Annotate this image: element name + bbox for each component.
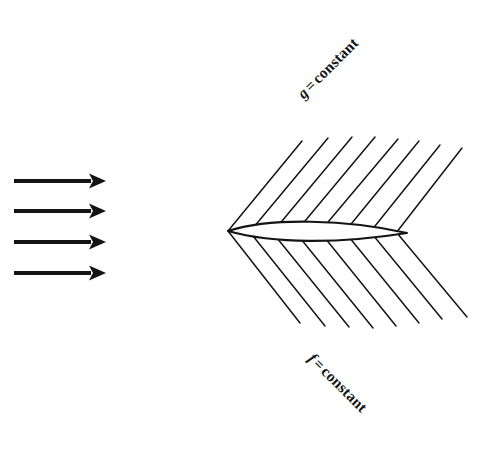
streamline-f <box>397 233 467 317</box>
streamline-g <box>396 148 462 233</box>
arrow-head <box>89 204 106 219</box>
arrow-head <box>89 235 106 250</box>
g-constant-streamlines <box>228 137 462 233</box>
flow-field-drawing <box>0 0 489 450</box>
streamline-g <box>253 138 328 228</box>
streamline-f <box>253 236 325 326</box>
arrow-head <box>89 174 106 189</box>
figure-canvas: g=constant f=constant <box>0 0 489 450</box>
streamline-g <box>323 139 398 228</box>
uniform-flow-arrows <box>14 174 106 281</box>
streamline-g <box>277 137 352 227</box>
streamline-g <box>228 141 302 231</box>
arrow-head <box>89 266 106 281</box>
streamline-f <box>277 238 349 327</box>
streamline-g <box>300 137 375 227</box>
streamline-f <box>228 231 300 323</box>
f-constant-streamlines <box>228 231 467 328</box>
streamline-f <box>373 235 442 319</box>
